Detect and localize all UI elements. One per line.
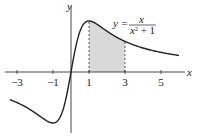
x-tick-label: −3 <box>11 76 23 88</box>
eq-lhs: y = <box>112 17 128 29</box>
x-ticks: −3−1135 <box>11 70 164 88</box>
x-tick-label: 3 <box>122 76 128 88</box>
x-tick-label: 5 <box>158 76 164 88</box>
chart: −3−1135 x y y = x x2 + 1 <box>0 0 198 137</box>
eq-denominator: x2 + 1 <box>129 24 155 36</box>
x-tick-label: 1 <box>86 76 92 88</box>
x-tick-label: −1 <box>47 76 59 88</box>
equation-annotation: y = x x2 + 1 <box>112 13 156 36</box>
x-axis-label: x <box>186 66 192 78</box>
y-axis-label: y <box>66 0 72 12</box>
